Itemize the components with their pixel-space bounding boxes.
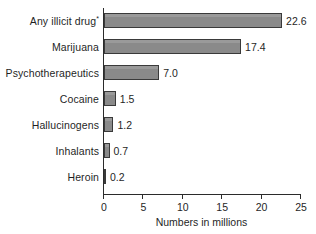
bar — [104, 65, 159, 80]
bar — [104, 143, 110, 158]
bar-rows: Any illicit drug*22.6Marijuana17.4Psycho… — [0, 8, 316, 194]
bar-value-label: 7.0 — [163, 67, 178, 79]
category-label: Cocaine — [60, 93, 99, 105]
x-axis-tick-label: 10 — [177, 201, 189, 213]
bar-highlight — [105, 118, 112, 121]
category-label: Hallucinogens — [32, 119, 99, 131]
bar-value-label: 1.2 — [117, 119, 132, 131]
bar-value-label: 17.4 — [245, 41, 265, 53]
bar-value-label: 1.5 — [120, 93, 135, 105]
category-label: Inhalants — [55, 145, 99, 157]
category-label: Marijuana — [52, 41, 99, 53]
footnote-marker: * — [96, 15, 99, 22]
bar — [104, 39, 241, 54]
bar-value-label: 0.2 — [110, 171, 125, 183]
bar — [104, 13, 282, 28]
bar-row: Marijuana17.4 — [0, 34, 316, 60]
bar-row: Heroin0.2 — [0, 164, 316, 190]
bar-row: Cocaine1.5 — [0, 86, 316, 112]
bar-row: Inhalants0.7 — [0, 138, 316, 164]
bar-highlight — [105, 92, 115, 95]
bar-highlight — [105, 66, 158, 69]
bar-value-label: 22.6 — [286, 15, 306, 27]
bar-highlight — [105, 14, 281, 17]
x-axis-tick-label: 25 — [295, 201, 307, 213]
x-axis-title: Numbers in millions — [103, 216, 300, 228]
category-label: Any illicit drug* — [30, 15, 99, 27]
bar-row: Psychotherapeutics7.0 — [0, 60, 316, 86]
bar-highlight — [105, 144, 109, 147]
x-axis-tick — [103, 194, 104, 199]
x-axis-tick-label: 0 — [101, 201, 107, 213]
bar-value-label: 0.7 — [114, 145, 129, 157]
x-axis-tick-label: 20 — [256, 201, 268, 213]
category-label: Psychotherapeutics — [6, 67, 99, 79]
x-axis-tick-label: 15 — [216, 201, 228, 213]
x-axis-tick — [300, 194, 301, 199]
x-axis-line — [103, 194, 300, 195]
category-label: Heroin — [67, 171, 99, 183]
bar-chart: Any illicit drug*22.6Marijuana17.4Psycho… — [0, 0, 316, 234]
x-axis-tick — [142, 194, 143, 199]
bar — [104, 91, 116, 106]
x-axis-tick — [182, 194, 183, 199]
bar — [104, 117, 113, 132]
bar-row: Any illicit drug*22.6 — [0, 8, 316, 34]
bar-row: Hallucinogens1.2 — [0, 112, 316, 138]
bar-highlight — [105, 40, 240, 43]
bar — [104, 169, 106, 184]
x-axis-tick-label: 5 — [140, 201, 146, 213]
x-axis-tick — [261, 194, 262, 199]
x-axis-tick — [221, 194, 222, 199]
